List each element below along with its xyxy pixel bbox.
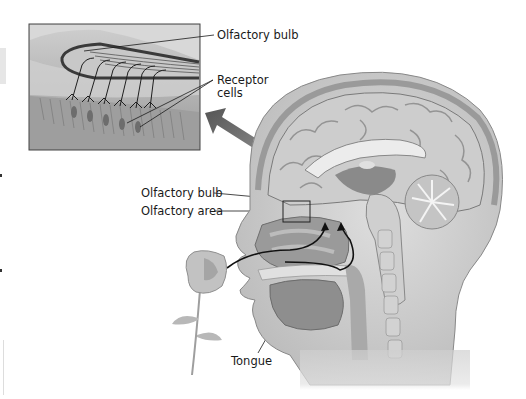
olfactory-illustration bbox=[0, 0, 526, 399]
label-receptor-cells-2: cells bbox=[217, 87, 243, 100]
head-section bbox=[227, 72, 503, 390]
label-olfactory-bulb: Olfactory bulb bbox=[141, 187, 222, 200]
label-inset-olfactory-bulb: Olfactory bulb bbox=[217, 29, 298, 42]
inset-panel bbox=[29, 24, 200, 150]
rose-flower bbox=[172, 251, 227, 375]
label-olfactory-area: Olfactory area bbox=[141, 205, 223, 218]
cerebellum bbox=[405, 175, 459, 229]
label-tongue: Tongue bbox=[231, 355, 272, 368]
